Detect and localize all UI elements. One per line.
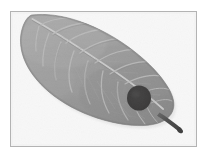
grain-layer [11, 12, 196, 146]
figure-root: Grayscale photograph of an ovate leaf, a… [0, 0, 208, 159]
leaf-photograph [11, 12, 196, 146]
photo-frame [10, 11, 197, 147]
